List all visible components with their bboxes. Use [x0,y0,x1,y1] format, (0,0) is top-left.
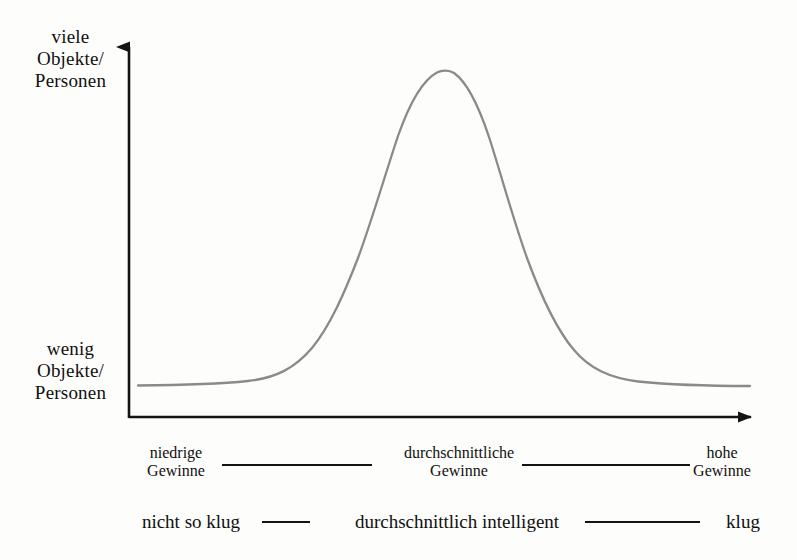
x-axis-category-high-line1: hohe [668,444,776,462]
ability-divider-right [585,521,700,523]
y-axis-high-label-line3: Personen [18,70,123,92]
y-axis-low-label: wenig Objekte/ Personen [18,338,123,404]
x-axis-category-high: hohe Gewinne [668,444,776,480]
ability-label-low: nicht so klug [128,511,254,533]
y-axis-low-label-line3: Personen [18,382,123,404]
ability-label-high: klug [712,511,774,533]
bell-curve-figure: viele Objekte/ Personen wenig Objekte/ P… [0,0,797,560]
category-divider-right [522,464,690,466]
normal-distribution-curve [138,71,750,386]
y-axis-high-label-line1: viele [18,26,123,48]
y-axis-low-label-line2: Objekte/ [18,360,123,382]
x-axis-category-average-line1: durchschnittliche [370,444,548,462]
x-axis-category-low-line2: Gewinne [128,462,224,480]
y-axis-high-label-line2: Objekte/ [18,48,123,70]
y-axis-low-label-line1: wenig [18,338,123,360]
y-axis-high-label: viele Objekte/ Personen [18,26,123,92]
category-divider-left [222,464,372,466]
x-axis-category-low-line1: niedrige [128,444,224,462]
x-axis-category-low: niedrige Gewinne [128,444,224,480]
ability-label-average: durchschnittlich intelligent [330,511,584,533]
x-axis-category-average: durchschnittliche Gewinne [370,444,548,480]
ability-divider-left [262,521,310,523]
